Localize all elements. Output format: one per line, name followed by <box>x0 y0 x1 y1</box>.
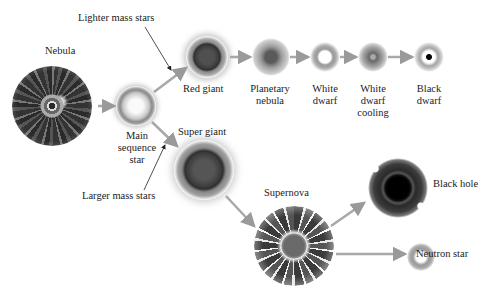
label-black-hole: Black hole <box>433 178 478 190</box>
main-sequence-star-image <box>116 86 156 126</box>
white-dwarf-cooling-image <box>358 42 388 72</box>
label-planetary-line2: nebula <box>245 95 295 107</box>
nebula-image <box>12 66 92 146</box>
label-white-dwarf-cooling: White dwarf cooling <box>353 83 393 119</box>
label-main-sequence-line3: star <box>112 154 162 166</box>
label-planetary-nebula: Planetary nebula <box>245 83 295 107</box>
label-nebula: Nebula <box>45 45 75 57</box>
label-larger-mass: Larger mass stars <box>82 190 155 202</box>
label-white-dwarf-line2: dwarf <box>305 95 345 107</box>
label-cooling-line1: White <box>353 83 393 95</box>
planetary-nebula-image <box>252 38 290 76</box>
label-main-sequence-line1: Main <box>112 130 162 142</box>
arrow-main-to-redgiant <box>154 68 186 92</box>
white-dwarf-image <box>310 42 340 72</box>
label-lighter-mass: Lighter mass stars <box>78 12 154 24</box>
black-dwarf-image <box>414 42 444 72</box>
super-giant-image <box>174 140 234 200</box>
label-cooling-line3: cooling <box>353 107 393 119</box>
label-red-giant: Red giant <box>183 83 224 95</box>
label-neutron-star: Neutron star <box>416 248 468 260</box>
label-black-dwarf: Black dwarf <box>409 83 449 107</box>
label-planetary-line1: Planetary <box>245 83 295 95</box>
label-super-giant: Super giant <box>178 126 226 138</box>
label-main-sequence-line2: sequence <box>112 142 162 154</box>
label-main-sequence: Main sequence star <box>112 130 162 166</box>
arrow-supernova-to-blackhole <box>331 203 364 226</box>
arrow-supergiant-to-supernova <box>226 196 254 226</box>
red-giant-image <box>186 36 228 78</box>
label-black-dwarf-line2: dwarf <box>409 95 449 107</box>
label-white-dwarf-line1: White <box>305 83 345 95</box>
label-supernova: Supernova <box>264 187 309 199</box>
pointer-lighter-mass <box>145 27 171 70</box>
label-cooling-line2: dwarf <box>353 95 393 107</box>
black-hole-image <box>368 158 428 218</box>
supernova-image <box>254 206 334 286</box>
label-white-dwarf: White dwarf <box>305 83 345 107</box>
label-black-dwarf-line1: Black <box>409 83 449 95</box>
